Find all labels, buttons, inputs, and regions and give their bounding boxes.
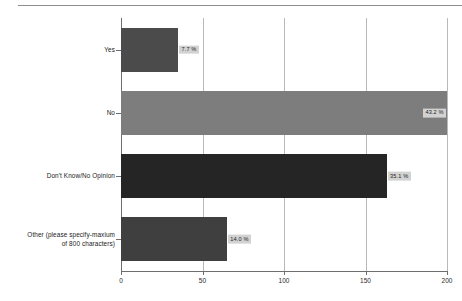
bar-value-label: 43.2 % xyxy=(423,108,446,117)
bar[interactable] xyxy=(121,217,227,261)
category-label: Other (please specify-maxium of 800 char… xyxy=(2,231,115,248)
bar[interactable] xyxy=(121,154,387,198)
category-tick xyxy=(116,239,121,240)
bar-row xyxy=(121,91,447,135)
category-label: Yes xyxy=(2,45,115,53)
bar-value-label: 14.0 % xyxy=(228,235,251,244)
x-axis-tick-label: 50 xyxy=(199,277,206,284)
bar-row xyxy=(121,28,447,72)
category-tick xyxy=(116,176,121,177)
gridline xyxy=(447,18,448,271)
category-tick xyxy=(116,113,121,114)
category-tick xyxy=(116,50,121,51)
x-axis-tick-label: 100 xyxy=(278,277,289,284)
category-label: Don't Know/No Opinion xyxy=(2,172,115,180)
x-axis-tick xyxy=(284,271,285,275)
x-axis-tick xyxy=(121,271,122,275)
x-axis-tick-label: 150 xyxy=(360,277,371,284)
bar[interactable] xyxy=(121,91,447,135)
plot-area: 050100150200 7.7 %43.2 %35.1 %14.0 % xyxy=(121,18,447,271)
category-label: No xyxy=(2,109,115,117)
x-axis-tick xyxy=(366,271,367,275)
x-axis-tick-label: 200 xyxy=(441,277,452,284)
horizontal-bar-chart: 050100150200 7.7 %43.2 %35.1 %14.0 % Yes… xyxy=(0,0,462,301)
x-axis-tick xyxy=(447,271,448,275)
bar-value-label: 7.7 % xyxy=(179,45,199,54)
x-axis-tick xyxy=(203,271,204,275)
bar[interactable] xyxy=(121,28,178,72)
x-axis-tick-label: 0 xyxy=(119,277,123,284)
bar-row xyxy=(121,217,447,261)
bar-value-label: 35.1 % xyxy=(388,172,411,181)
